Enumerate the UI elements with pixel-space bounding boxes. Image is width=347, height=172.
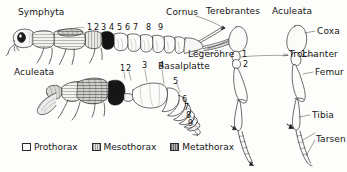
aculeata-segment-number: 1	[120, 65, 125, 73]
label-basalplatte: Basalplatte	[158, 62, 210, 71]
label-legerohre: Legeröhre	[188, 50, 234, 59]
label-cornus: Cornus	[166, 8, 198, 17]
legend-label-mesothorax: Mesothorax	[104, 142, 157, 152]
symphyta-segment-number: 5	[117, 24, 122, 32]
aculeata-segment-number: 5	[173, 78, 178, 86]
label-tibia: Tibia	[312, 111, 334, 120]
aculeata-leg-illustration	[241, 25, 316, 166]
symphyta-segment-number: 3	[101, 24, 106, 32]
symphyta-segment-number: 7	[133, 24, 138, 32]
legend-item-metathorax: Metathorax	[170, 142, 234, 152]
symphyta-segment-number: 6	[125, 24, 130, 32]
symphyta-segment-number: 4	[109, 24, 114, 32]
aculeata-segment-number: 4	[159, 62, 164, 70]
aculeata-trochanter-number: 1	[301, 51, 306, 59]
label-symphyta: Symphyta	[18, 8, 64, 17]
label-terebrantes: Terebrantes	[206, 7, 260, 16]
metathorax-swatch-icon	[170, 143, 179, 151]
aculeata-segment-number: 9	[188, 120, 193, 128]
symphyta-segment-number: 1	[87, 24, 92, 32]
figure-hymenoptera-morphology: Symphyta Cornus Legeröhre Basalplatte 1 …	[0, 0, 347, 172]
label-femur: Femur	[315, 68, 344, 77]
label-aculeata-body: Aculeata	[14, 68, 54, 77]
mesothorax-swatch-icon	[92, 143, 101, 151]
legend-item-prothorax: Prothorax	[22, 142, 78, 152]
legend-label-metathorax: Metathorax	[182, 142, 234, 152]
terebrantes-trochanter-number: 1	[242, 51, 247, 59]
prothorax-swatch-icon	[22, 143, 31, 151]
symphyta-segment-number: 8	[146, 24, 151, 32]
aculeata-segment-number: 3	[142, 62, 147, 70]
aculeata-segment-number: 2	[126, 65, 131, 73]
label-aculeata-leg: Aculeata	[272, 7, 312, 16]
symphyta-segment-number: 9	[158, 24, 163, 32]
symphyta-segment-number: 2	[94, 24, 99, 32]
label-tarsen: Tarsen	[316, 135, 346, 144]
legend-label-prothorax: Prothorax	[34, 142, 78, 152]
terebrantes-trochanter-number: 2	[243, 61, 248, 69]
legend-item-mesothorax: Mesothorax	[92, 142, 157, 152]
label-coxa: Coxa	[317, 27, 340, 36]
legend: Prothorax Mesothorax Metathorax	[22, 142, 234, 152]
label-trochanter: Trochanter	[289, 50, 338, 59]
